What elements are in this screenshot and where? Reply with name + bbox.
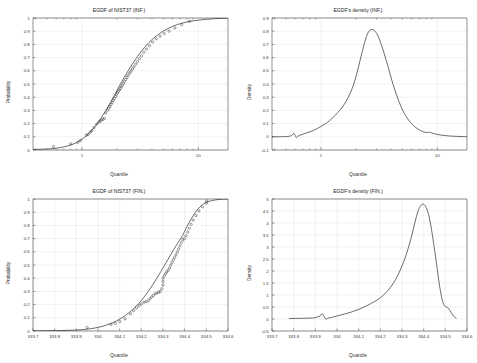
y-tick-label: 0 [266,134,269,139]
data-point-markers [86,200,208,329]
y-tick-label: 0.2 [24,302,31,307]
y-tick-label: 0 [27,329,30,334]
y-tick-label: 0 [27,148,30,153]
y-tick-label: 0.7 [24,236,31,241]
plot-title-density-fin: EGDF's density (FIN.) [333,188,383,194]
x-tick-label: 334.1 [114,334,126,339]
x-tick-label: 334 [333,334,341,339]
x-tick-label: 334.6 [462,334,474,339]
grid-density-fin [272,199,467,331]
y-tick-label: 0.7 [24,55,31,60]
ylabel-density-inf: Density [247,83,252,100]
x-tick-label: 333.9 [310,334,322,339]
data-density-inf [272,29,467,137]
panel-density-inf: EGDF's density (INF.) -0.100.10.20.30.40… [239,0,477,181]
y-tick-label: 0.8 [24,42,31,47]
y-tick-label: 0.5 [263,305,270,310]
x-tick-label: 334.4 [179,334,191,339]
panel-egdf-inf: EGDF of NIST37 (INF.) 00.10.20.30.40.50.… [0,0,238,181]
y-tick-label: 0.8 [263,29,270,34]
y-tick-label: 1 [266,293,269,298]
x-tick-label: 10 [435,153,440,158]
x-tick-label: 334.5 [440,334,452,339]
x-tick-label: 334.6 [223,334,235,339]
xlabel-density-fin: Quantile [349,353,367,358]
y-tick-label: 0.2 [263,108,270,113]
panel-density-fin: EGDF's density (FIN.) -0.500.511.522.533… [239,181,477,362]
y-tick-label: 1.5 [263,281,270,286]
x-tick-label: 334.3 [397,334,409,339]
x-tick-label: 334.1 [353,334,365,339]
y-tick-label: 3.5 [263,233,270,238]
y-tick-label: 0.6 [24,249,31,254]
y-tick-label: 2 [266,269,269,274]
y-tick-label: 0 [266,317,269,322]
plot-title-egdf-inf: EGDF of NIST37 (INF.) [93,7,146,13]
data-curve [289,204,456,319]
plot-density-fin: EGDF's density (FIN.) -0.500.511.522.533… [239,181,477,362]
x-tick-label: 334.2 [136,334,148,339]
y-tick-label: 0.5 [24,82,31,87]
x-tick-label: 333.7 [28,334,40,339]
xlabel-density-inf: Quantile [349,172,367,177]
x-tick-label: 333.8 [288,334,300,339]
y-tick-label: 1 [27,197,30,202]
axes-density-fin [272,199,467,331]
figure-grid: EGDF of NIST37 (INF.) 00.10.20.30.40.50.… [0,0,477,363]
x-tick-label: 10 [196,153,201,158]
plot-density-inf: EGDF's density (INF.) -0.100.10.20.30.40… [239,0,477,181]
y-tick-label: 4.5 [263,209,270,214]
y-tick-label: 0.5 [263,68,270,73]
y-tick-label: 2.5 [263,257,270,262]
xlabel-egdf-fin: Quantile [110,353,128,358]
x-tick-label: 334.5 [201,334,213,339]
x-tick-label: 1 [320,153,323,158]
y-tick-label: 0.1 [24,315,31,320]
y-tick-label: 0.3 [24,108,31,113]
x-tick-label: 334.4 [418,334,430,339]
x-tick-label: 334.3 [158,334,170,339]
data-curve [272,29,467,137]
y-tick-label: 5 [266,197,269,202]
x-tick-label: 334.2 [375,334,387,339]
y-tick-label: 0.6 [263,55,270,60]
grid-density-inf [272,18,467,150]
plot-egdf-fin: EGDF of NIST37 (FIN.) 00.10.20.30.40.50.… [0,181,238,362]
y-tick-label: 0.2 [24,121,31,126]
x-tick-label: 333.7 [267,334,279,339]
data-curve [33,18,228,149]
y-tick-label: 0.9 [24,210,31,215]
y-tick-label: 0.7 [263,42,270,47]
y-tick-label: -0.5 [261,329,269,334]
x-tick-label: 333.8 [49,334,61,339]
y-tick-label: 4 [266,221,269,226]
x-tick-label: 1 [81,153,84,158]
data-egdf-inf [33,18,228,149]
y-tick-label: 0.4 [24,276,31,281]
plot-title-density-inf: EGDF's density (INF.) [333,7,382,13]
x-tick-label: 333.9 [71,334,83,339]
ylabel-egdf-inf: Probability [6,80,11,103]
y-tick-label: 0.8 [24,223,31,228]
y-tick-label: 3 [266,245,269,250]
plot-title-egdf-fin: EGDF of NIST37 (FIN.) [93,188,146,194]
y-tick-label: 0.3 [263,95,270,100]
xlabel-egdf-inf: Quantile [110,172,128,177]
y-tick-label: 0.9 [24,29,31,34]
y-tick-label: 0.1 [263,121,270,126]
ylabel-density-fin: Density [247,264,252,281]
ticklabels-density-fin: -0.500.511.522.533.544.55333.7333.8333.9… [261,197,473,339]
y-tick-label: 1 [27,16,30,21]
y-tick-label: 0.5 [24,263,31,268]
ylabel-egdf-fin: Probability [6,261,11,284]
y-tick-label: 0.6 [24,68,31,73]
plot-egdf-inf: EGDF of NIST37 (INF.) 00.10.20.30.40.50.… [0,0,238,181]
panel-egdf-fin: EGDF of NIST37 (FIN.) 00.10.20.30.40.50.… [0,181,238,362]
y-tick-label: 0.4 [263,82,270,87]
x-tick-label: 334 [94,334,102,339]
grid-egdf-inf [33,18,228,150]
y-tick-label: 0.9 [263,16,270,21]
y-tick-label: 0.3 [24,289,31,294]
y-tick-label: 0.4 [24,95,31,100]
y-tick-label: 0.1 [24,134,31,139]
